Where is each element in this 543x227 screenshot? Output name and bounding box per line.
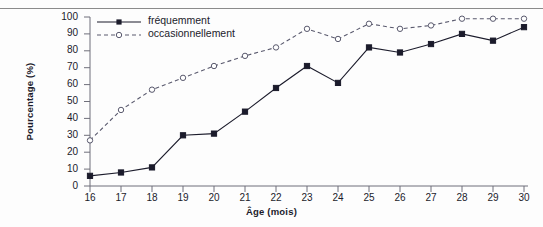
data-point <box>118 170 123 175</box>
data-point <box>366 21 371 26</box>
x-tick-label: 17 <box>106 192 136 203</box>
data-point <box>459 16 464 21</box>
series-layer <box>87 16 526 178</box>
y-tick-label: 80 <box>44 44 78 55</box>
x-tick-label: 16 <box>75 192 105 203</box>
data-point <box>428 41 433 46</box>
data-point <box>490 38 495 43</box>
line-chart: Pourcentage (%) Âge (mois) 0102030405060… <box>0 0 543 227</box>
x-axis-label: Âge (mois) <box>0 206 543 217</box>
data-point <box>118 107 123 112</box>
x-tick-label: 27 <box>416 192 446 203</box>
legend-item[interactable]: fréquemment <box>96 13 235 26</box>
data-point <box>335 80 340 85</box>
y-tick-label: 90 <box>44 27 78 38</box>
legend-item[interactable]: occasionnellement <box>96 26 235 39</box>
data-point <box>304 63 309 68</box>
data-point <box>521 16 526 21</box>
legend-label: fréquemment <box>142 14 210 26</box>
x-tick-label: 19 <box>168 192 198 203</box>
data-point <box>273 85 278 90</box>
y-axis-ticks <box>84 17 90 186</box>
y-tick-label: 50 <box>44 95 78 106</box>
x-tick-label: 30 <box>509 192 539 203</box>
y-tick-label: 70 <box>44 61 78 72</box>
data-point <box>87 173 92 178</box>
data-point <box>180 133 185 138</box>
data-point <box>149 87 154 92</box>
data-point <box>428 23 433 28</box>
data-point <box>149 165 154 170</box>
data-point <box>490 16 495 21</box>
legend-label: occasionnellement <box>142 27 235 39</box>
y-tick-label: 40 <box>44 112 78 123</box>
data-point <box>521 25 526 30</box>
x-tick-label: 24 <box>323 192 353 203</box>
x-tick-label: 23 <box>292 192 322 203</box>
data-point <box>87 138 92 143</box>
x-tick-label: 25 <box>354 192 384 203</box>
data-point <box>242 53 247 58</box>
y-tick-label: 0 <box>44 180 78 191</box>
y-tick-label: 30 <box>44 129 78 140</box>
x-tick-label: 18 <box>137 192 167 203</box>
y-tick-label: 100 <box>44 11 78 22</box>
y-tick-label: 10 <box>44 163 78 174</box>
x-tick-label: 22 <box>261 192 291 203</box>
series-frequemment <box>87 25 526 179</box>
data-point <box>459 31 464 36</box>
x-tick-label: 26 <box>385 192 415 203</box>
series-line <box>90 27 524 176</box>
data-point <box>335 36 340 41</box>
x-tick-label: 29 <box>478 192 508 203</box>
data-point <box>211 63 216 68</box>
data-point <box>273 45 278 50</box>
data-point <box>366 45 371 50</box>
data-point <box>397 26 402 31</box>
y-axis-label: Pourcentage (%) <box>24 42 35 162</box>
data-point <box>242 109 247 114</box>
x-tick-label: 28 <box>447 192 477 203</box>
x-tick-label: 20 <box>199 192 229 203</box>
chart-legend: fréquemmentoccasionnellement <box>96 13 235 39</box>
y-tick-label: 20 <box>44 146 78 157</box>
data-point <box>304 26 309 31</box>
legend-key-dashed-circle-icon <box>96 27 142 39</box>
data-point <box>211 131 216 136</box>
data-point <box>180 75 185 80</box>
figure-container: Pourcentage (%) Âge (mois) 0102030405060… <box>0 0 543 227</box>
x-tick-label: 21 <box>230 192 260 203</box>
legend-key-solid-square-icon <box>96 14 142 26</box>
y-tick-label: 60 <box>44 78 78 89</box>
data-point <box>397 50 402 55</box>
